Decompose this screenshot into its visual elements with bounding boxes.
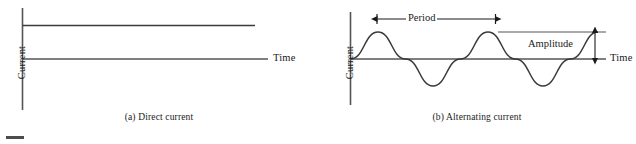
direct-current-plot — [0, 0, 318, 144]
panel-caption-a: (a) Direct current — [0, 112, 318, 122]
period-label: Period — [406, 12, 437, 23]
figure-number-rule — [6, 136, 24, 139]
figure-container: Current Time (a) Direct current — [0, 0, 636, 144]
x-axis-label-time: Time — [273, 52, 296, 63]
panel-alternating-current: Current Time Period Amplitude (b) Altern… — [318, 0, 636, 144]
alternating-current-plot — [318, 0, 636, 144]
x-axis-label-time: Time — [610, 52, 633, 63]
panel-direct-current: Current Time (a) Direct current — [0, 0, 318, 144]
panel-caption-b: (b) Alternating current — [318, 112, 636, 122]
y-axis-label-current: Current — [344, 33, 355, 93]
y-axis-label-current: Current — [16, 33, 27, 93]
amplitude-label: Amplitude — [526, 38, 575, 49]
